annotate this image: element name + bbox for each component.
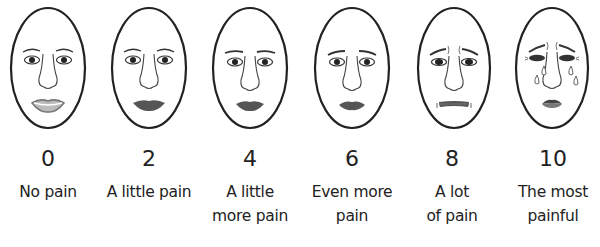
pain-scale: 0 No pain 2 A little pain — [0, 0, 600, 247]
pain-score: 2 — [99, 146, 199, 172]
face-no-pain-icon — [0, 0, 98, 140]
pain-level-4: 4 A little more pain — [200, 0, 300, 247]
pain-level-6: 6 Even more pain — [302, 0, 402, 247]
pain-level-2: 2 A little pain — [99, 0, 199, 247]
pain-label: The most painful — [493, 180, 600, 228]
face-little-pain-icon — [99, 0, 199, 140]
pain-score: 4 — [200, 146, 300, 172]
face-most-painful-icon — [503, 0, 600, 140]
pain-level-8: 8 A lot of pain — [402, 0, 502, 247]
pain-score: 8 — [402, 146, 502, 172]
pain-score: 0 — [0, 146, 98, 172]
face-even-more-pain-icon — [302, 0, 402, 140]
face-lot-of-pain-icon — [402, 0, 502, 140]
pain-level-0: 0 No pain — [0, 0, 98, 247]
pain-score: 6 — [302, 146, 402, 172]
pain-score: 10 — [503, 146, 600, 172]
pain-level-10: 10 The most painful — [503, 0, 600, 247]
face-little-more-pain-icon — [200, 0, 300, 140]
